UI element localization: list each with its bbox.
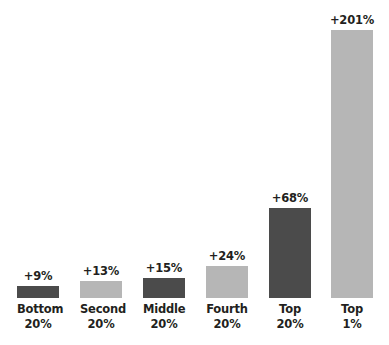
category-label-second-20: Second 20% bbox=[80, 302, 122, 331]
bar-rect bbox=[331, 30, 373, 298]
category-label-fourth-20: Fourth 20% bbox=[206, 302, 248, 331]
bar-rect bbox=[269, 208, 311, 298]
bar-value-label: +68% bbox=[272, 193, 308, 205]
category-line-1: Bottom bbox=[17, 302, 59, 317]
category-line-2: 20% bbox=[143, 317, 185, 332]
category-line-1: Second bbox=[80, 302, 122, 317]
category-line-2: 20% bbox=[269, 317, 311, 332]
category-line-2: 1% bbox=[331, 317, 373, 332]
category-line-2: 20% bbox=[80, 317, 122, 332]
category-label-top-20: Top 20% bbox=[269, 302, 311, 331]
bar-group-middle-20: +15% bbox=[143, 263, 185, 299]
bar-group-top-20: +68% bbox=[269, 193, 311, 299]
category-line-2: 20% bbox=[17, 317, 59, 332]
bar-chart: +9% Bottom 20% +13% Second 20% +15% Midd… bbox=[0, 0, 389, 345]
bar-rect bbox=[80, 281, 122, 298]
bar-value-label: +13% bbox=[83, 266, 119, 278]
bar-group-bottom-20: +9% bbox=[17, 271, 59, 299]
bar-value-label: +15% bbox=[146, 263, 182, 275]
bar-rect bbox=[143, 278, 185, 298]
category-line-1: Top bbox=[331, 302, 373, 317]
category-line-1: Fourth bbox=[206, 302, 248, 317]
category-label-bottom-20: Bottom 20% bbox=[17, 302, 59, 331]
category-label-top-1: Top 1% bbox=[331, 302, 373, 331]
bar-group-top-1: +201% bbox=[331, 15, 373, 299]
bar-rect bbox=[206, 266, 248, 298]
bar-value-label: +24% bbox=[209, 251, 245, 263]
category-line-2: 20% bbox=[206, 317, 248, 332]
category-line-1: Middle bbox=[143, 302, 185, 317]
bar-group-fourth-20: +24% bbox=[206, 251, 248, 299]
bar-group-second-20: +13% bbox=[80, 266, 122, 299]
bar-value-label: +9% bbox=[24, 271, 53, 283]
category-line-1: Top bbox=[269, 302, 311, 317]
category-label-middle-20: Middle 20% bbox=[143, 302, 185, 331]
bar-rect bbox=[17, 286, 59, 298]
bar-value-label: +201% bbox=[330, 15, 374, 27]
plot-area: +9% Bottom 20% +13% Second 20% +15% Midd… bbox=[0, 0, 389, 345]
